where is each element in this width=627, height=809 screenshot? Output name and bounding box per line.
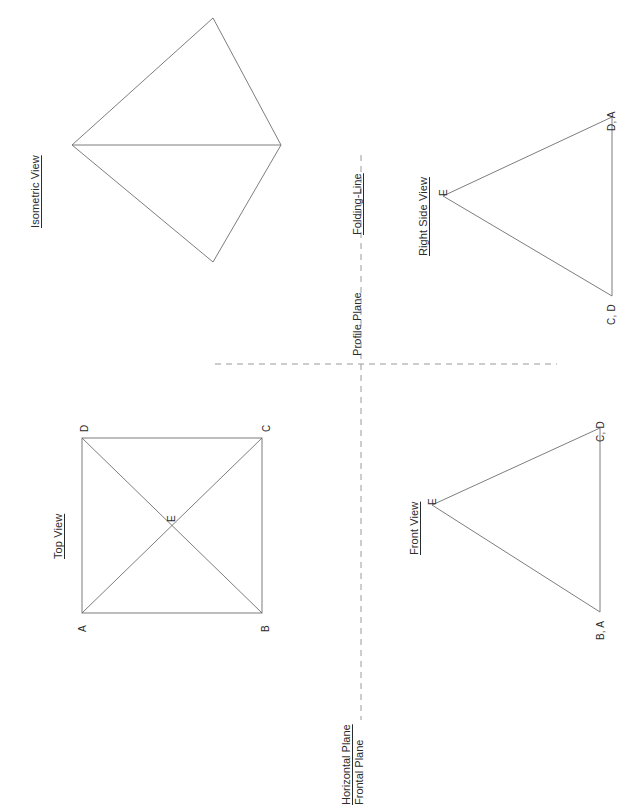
right-side-view-geometry xyxy=(443,117,612,296)
front-view-geometry xyxy=(432,428,600,612)
front-view-triangle xyxy=(432,428,600,612)
right-side-view-title: Right Side View xyxy=(418,177,429,256)
front-view-vertex-ba: B, A xyxy=(596,621,606,640)
top-view-vertex-d: D xyxy=(80,425,90,432)
drawing-page: Isometric View Top View D C A B E Right … xyxy=(0,0,627,809)
right-side-view-triangle xyxy=(443,117,612,296)
top-view-vertex-e: E xyxy=(167,515,177,522)
front-view-title: Front View xyxy=(409,502,420,555)
isometric-view-title: Isometric View xyxy=(30,155,41,228)
front-view-vertex-cd: C, D xyxy=(596,421,606,442)
isometric-outline xyxy=(72,18,281,262)
multiview-drawing-canvas xyxy=(0,0,627,809)
bottom-plane-labels: Horizontal Plane Frontal Plane xyxy=(340,724,366,805)
front-view-vertex-e: E xyxy=(428,498,438,505)
right-side-view-vertex-da: D, A xyxy=(607,111,617,131)
top-view-vertex-a: A xyxy=(78,625,88,632)
right-side-view-vertex-cd: C, D xyxy=(607,304,617,325)
top-view-title: Top View xyxy=(53,514,64,559)
folding-lines xyxy=(215,155,557,720)
frontal-plane-label: Frontal Plane xyxy=(353,724,366,805)
top-view-vertex-c: C xyxy=(262,425,272,432)
profile-plane-label: Profile Plane xyxy=(352,292,363,356)
isometric-view-geometry xyxy=(72,18,281,262)
folding-line-label: Folding-Line xyxy=(352,173,363,235)
top-view-geometry xyxy=(82,438,262,613)
top-view-vertex-b: B xyxy=(261,625,271,632)
right-side-view-vertex-e: E xyxy=(439,189,449,196)
horizontal-plane-label: Horizontal Plane xyxy=(340,724,353,805)
